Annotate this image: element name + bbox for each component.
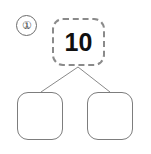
- part-box-right[interactable]: [87, 92, 133, 140]
- connector-line-left: [41, 67, 78, 92]
- whole-value: 10: [65, 30, 93, 55]
- connector-line-right: [78, 67, 110, 92]
- whole-box[interactable]: 10: [52, 18, 105, 66]
- number-bond-worksheet: ① 10: [0, 0, 151, 154]
- part-box-left[interactable]: [17, 92, 63, 140]
